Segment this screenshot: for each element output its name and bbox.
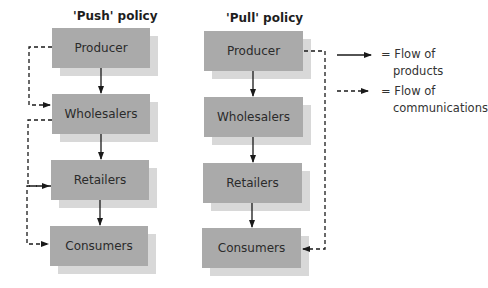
pull-comm-arrow: [303, 51, 325, 249]
legend-solid-line1: = Flow of: [381, 46, 443, 63]
legend-dashed-line1: = Flow of: [381, 83, 488, 100]
legend-dashed-label: = Flow of communications: [381, 83, 488, 117]
legend-solid-label: = Flow of products: [381, 46, 443, 80]
push-comm-arrow-1: [29, 47, 52, 105]
push-comm-arrow-2: [28, 120, 52, 186]
flow-arrows: [0, 0, 488, 288]
push-comm-arrow-3: [27, 186, 51, 244]
legend-dashed-line2: communications: [381, 100, 488, 117]
legend-solid-line2: products: [381, 63, 443, 80]
